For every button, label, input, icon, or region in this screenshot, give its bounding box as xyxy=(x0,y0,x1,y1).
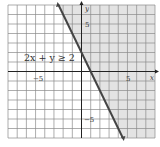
inequality-graph: 2x + y ≥ 2 x y −5 5 5 −5 xyxy=(0,0,160,147)
x-tick-5: 5 xyxy=(126,75,130,83)
y-tick-neg5: −5 xyxy=(84,116,94,124)
x-axis-arrow-icon xyxy=(155,70,159,74)
y-tick-5: 5 xyxy=(85,21,89,29)
x-axis-label: x xyxy=(150,74,154,82)
y-axis-arrow-icon xyxy=(80,1,84,5)
x-tick-neg5: −5 xyxy=(33,75,43,83)
inequality-label: 2x + y ≥ 2 xyxy=(24,52,75,63)
